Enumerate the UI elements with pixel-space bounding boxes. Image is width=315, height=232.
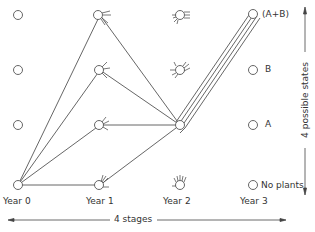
stage-label-year-3: Year 3 bbox=[240, 197, 268, 206]
node-y3-ab bbox=[249, 10, 258, 19]
node-y0-a bbox=[14, 121, 23, 130]
path-y0-to-y1-b bbox=[18, 70, 100, 185]
node-y3-b bbox=[249, 66, 258, 75]
node-y2-none bbox=[176, 181, 185, 190]
state-label-b: B bbox=[265, 65, 271, 74]
path-y1ab-to-y2-a bbox=[100, 15, 180, 125]
path-y1b-to-y2-a bbox=[100, 70, 180, 125]
path-y1none-to-y2-a bbox=[100, 125, 180, 185]
optimal-path-bundle bbox=[176, 12, 260, 133]
node-y1-ab bbox=[94, 11, 103, 20]
state-label-no-plants: No plants bbox=[261, 181, 304, 190]
node-y0-ab bbox=[14, 11, 23, 20]
states-axis-label: 4 possible states bbox=[300, 57, 310, 143]
path-y0-to-y1-a bbox=[18, 125, 100, 185]
node-y2-a bbox=[176, 121, 185, 130]
node-y3-none bbox=[249, 181, 258, 190]
node-y0-none bbox=[14, 181, 23, 190]
node-y2-b bbox=[176, 66, 185, 75]
state-label-a: A bbox=[265, 120, 271, 129]
stage-label-year-0: Year 0 bbox=[3, 197, 31, 206]
stages-axis-label: 4 stages bbox=[114, 215, 152, 224]
stage-label-year-2: Year 2 bbox=[163, 197, 191, 206]
node-y0-b bbox=[14, 66, 23, 75]
node-y3-a bbox=[249, 121, 258, 130]
node-y2-ab bbox=[176, 11, 185, 20]
state-label-ab: (A+B) bbox=[262, 10, 289, 19]
stage-label-year-1: Year 1 bbox=[86, 197, 114, 206]
dead-end-rays-icon bbox=[101, 11, 190, 187]
path-y0-to-y1-ab bbox=[18, 15, 100, 185]
